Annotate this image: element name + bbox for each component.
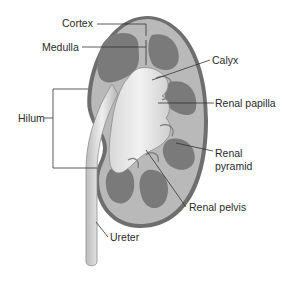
- label-renal-pelvis: Renal pelvis: [189, 201, 246, 213]
- label-medulla: Medulla: [42, 41, 79, 53]
- label-calyx: Calyx: [212, 54, 238, 66]
- label-renal-pyramid-1: Renal: [215, 147, 242, 159]
- label-ureter: Ureter: [110, 231, 139, 243]
- label-renal-papilla: Renal papilla: [215, 97, 276, 109]
- label-hilum: Hilum: [18, 112, 45, 124]
- label-renal-pyramid-2: pyramid: [215, 160, 252, 172]
- label-cortex: Cortex: [62, 17, 93, 29]
